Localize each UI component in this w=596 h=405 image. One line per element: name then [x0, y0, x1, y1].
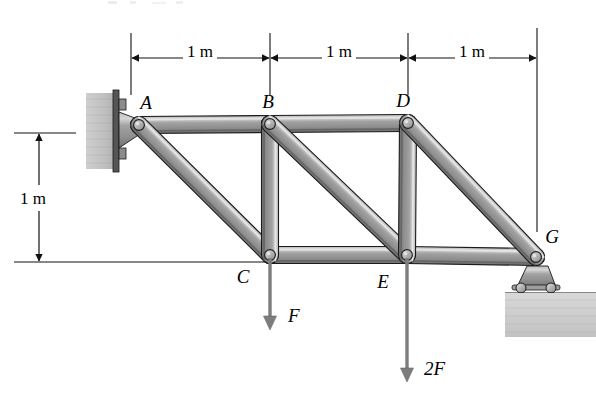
- pin-glint: [136, 122, 139, 125]
- joint-label-G: G: [545, 226, 559, 247]
- joint-label-D: D: [395, 90, 410, 111]
- dimension-label: 1 m: [187, 42, 213, 61]
- joint-label-E: E: [376, 271, 389, 292]
- member-highlight: [264, 117, 413, 118]
- truss-diagram-canvas: 1 m1 m1 m 1 m: [0, 0, 596, 405]
- joint-pin-D: [403, 118, 414, 129]
- wall-bolt-tab-top: [119, 99, 126, 110]
- load-F-label: F: [287, 305, 300, 326]
- joint-label-B: B: [262, 91, 274, 112]
- pin-circle: [134, 120, 145, 131]
- pin-glint: [404, 252, 407, 255]
- dimension-label: 1 m: [20, 189, 46, 208]
- horizontal-dimension-group: 1 m1 m1 m: [132, 42, 536, 61]
- joint-pin-G: [531, 252, 542, 263]
- joint-label-A: A: [138, 92, 152, 113]
- member-shadow: [401, 117, 402, 260]
- pin-glint: [267, 121, 270, 124]
- member-highlight: [133, 118, 275, 119]
- wall-plate: [113, 90, 119, 172]
- wall-bolt-tab-bottom: [119, 148, 126, 159]
- joint-label-C: C: [237, 266, 250, 287]
- roller-wheel-right: [546, 283, 556, 293]
- pin-circle: [403, 118, 414, 129]
- load-2F-label: 2F: [424, 358, 446, 379]
- pin-circle: [531, 252, 542, 263]
- pin-glint: [533, 254, 536, 257]
- dimension-label: 1 m: [459, 42, 485, 61]
- truss-diagram-figure: 1 m1 m1 m 1 m: [0, 0, 596, 405]
- pin-glint: [267, 252, 270, 255]
- pin-glint: [405, 120, 408, 123]
- figure-background: [0, 0, 596, 405]
- pin-circle: [265, 119, 276, 130]
- joint-pin-B: [265, 119, 276, 130]
- joint-pin-A: [134, 120, 145, 131]
- ground-block: [505, 293, 596, 337]
- dimension-label: 1 m: [326, 42, 352, 61]
- roller-wheel-left: [516, 283, 526, 293]
